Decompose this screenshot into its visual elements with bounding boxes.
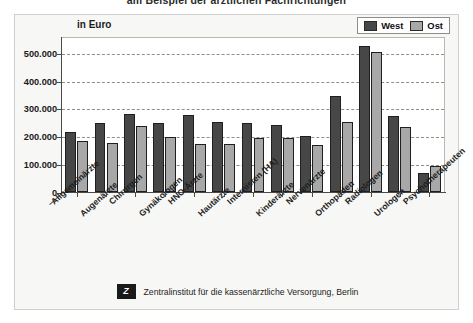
legend-label-west: West: [381, 20, 403, 31]
x-axis-tick-mark: [106, 192, 107, 197]
x-axis-tick-mark: [194, 192, 195, 197]
legend-label-ost: Ost: [427, 20, 443, 31]
bar-west: [359, 46, 370, 192]
bars-layer: [62, 38, 444, 192]
bar-group: [330, 38, 353, 192]
x-axis-tick-mark: [341, 192, 342, 197]
legend-swatch-west: [364, 21, 377, 31]
bar-west: [388, 116, 399, 192]
y-axis-tick-label: 100.000: [24, 160, 57, 170]
x-axis-tick-mark: [135, 192, 136, 197]
x-axis-tick-mark: [429, 192, 430, 197]
bar-group: [95, 38, 118, 192]
legend-entry-ost: Ost: [410, 20, 443, 31]
bar-west: [153, 123, 164, 192]
bar-west: [95, 123, 106, 192]
x-axis-tick-mark: [253, 192, 254, 197]
x-axis-tick-mark: [165, 192, 166, 197]
bar-group: [183, 38, 206, 192]
chart-legend: West Ost: [357, 17, 450, 34]
legend-swatch-ost: [410, 21, 423, 31]
y-axis-tick-label: 300.000: [24, 104, 57, 114]
y-axis-tick-label: 500.000: [24, 49, 57, 59]
y-axis-unit-label: in Euro: [77, 19, 111, 30]
x-axis-labels: AllgemeinärzteAugenärzteChirurgenGynäkol…: [15, 195, 460, 290]
x-axis-tick-mark: [77, 192, 78, 197]
x-axis-tick-mark: [371, 192, 372, 197]
y-axis-tick-label: 200.000: [24, 132, 57, 142]
bar-group: [388, 38, 411, 192]
bar-group: [153, 38, 176, 192]
x-axis-tick-mark: [312, 192, 313, 197]
bar-west: [212, 122, 223, 192]
bar-ost: [400, 127, 411, 192]
y-axis-tick-label: 400.000: [24, 77, 57, 87]
chart-footer: Z Zentralinstitut für die kassenärztlich…: [15, 284, 460, 299]
x-axis-tick-mark: [282, 192, 283, 197]
document-title: am Beispiel der ärztlichen Fachrichtunge…: [0, 0, 473, 6]
zi-logo: Z: [117, 284, 136, 299]
legend-entry-west: West: [364, 20, 403, 31]
y-axis-ticks: 0100.000200.000300.000400.000500.000: [15, 15, 57, 215]
footer-source-text: Zentralinstitut für die kassenärztliche …: [144, 287, 359, 297]
x-axis-tick-mark: [224, 192, 225, 197]
x-axis-tick-mark: [400, 192, 401, 197]
bar-group: [212, 38, 235, 192]
chart-figure: in Euro West Ost 0100.000200.000300.0004…: [14, 14, 459, 310]
bar-group: [271, 38, 294, 192]
bar-group: [124, 38, 147, 192]
bar-west: [330, 96, 341, 192]
